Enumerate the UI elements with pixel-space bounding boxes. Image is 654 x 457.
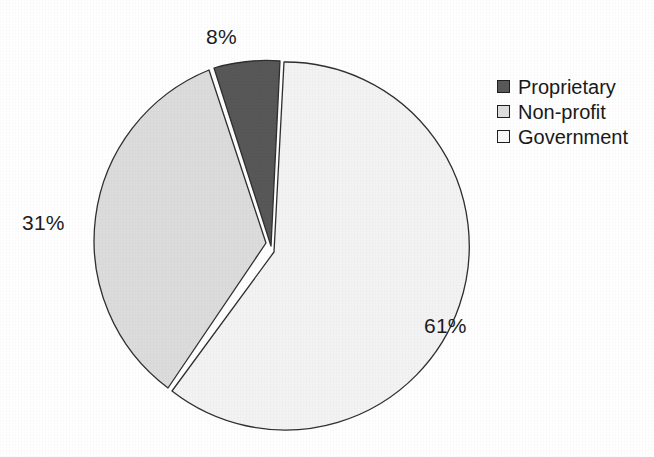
slice-label-government: 61%: [424, 315, 467, 336]
pie-chart-svg: [0, 0, 654, 457]
legend-swatch-icon-proprietary: [497, 80, 510, 93]
legend-label-nonprofit: Non-profit: [518, 102, 606, 122]
legend-label-proprietary: Proprietary: [518, 77, 616, 97]
legend-label-government: Government: [518, 127, 628, 147]
legend-item-proprietary[interactable]: Proprietary: [497, 74, 628, 99]
slice-label-nonprofit: 31%: [22, 212, 65, 233]
slice-label-proprietary: 8%: [206, 26, 237, 47]
legend-swatch-icon-nonprofit: [497, 105, 510, 118]
legend-item-nonprofit[interactable]: Non-profit: [497, 99, 628, 124]
chart-legend: Proprietary Non-profit Government: [497, 74, 628, 149]
legend-swatch-icon-government: [497, 130, 510, 143]
pie-chart-figure: 8% 31% 61% Proprietary Non-profit Govern…: [0, 0, 654, 457]
legend-item-government[interactable]: Government: [497, 124, 628, 149]
